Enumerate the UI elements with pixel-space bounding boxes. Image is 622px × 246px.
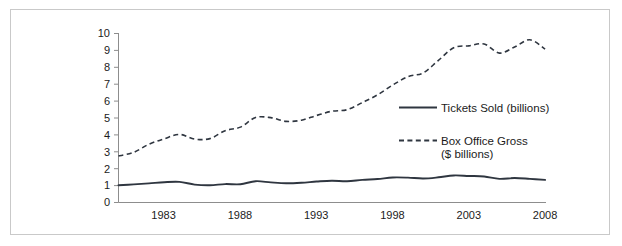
x-tick-label: 2003	[457, 209, 481, 221]
y-tick-label: 7	[104, 78, 110, 90]
legend-label-box-office-gross: Box Office Gross	[441, 135, 528, 147]
x-tick-labels: 1983 1988 1993 1998 2003 2008	[151, 209, 557, 221]
y-tick-label: 10	[98, 27, 110, 39]
y-tick-labels: 0 1 2 3 4 5 6 7 8 9 10	[98, 27, 110, 208]
y-tick-label: 9	[104, 44, 110, 56]
legend-label-box-office-gross-units: ($ billions)	[441, 148, 494, 160]
y-tick-label: 1	[104, 179, 110, 191]
y-tick-label: 3	[104, 146, 110, 158]
y-tick-label: 4	[104, 129, 110, 141]
line-chart: 0 1 2 3 4 5 6 7 8 9 10 1983 1988 1993 19…	[0, 0, 622, 246]
y-tick-label: 8	[104, 61, 110, 73]
legend-label-tickets-sold: Tickets Sold (billions)	[441, 102, 549, 114]
y-tick-label: 6	[104, 95, 110, 107]
y-tick-label: 2	[104, 163, 110, 175]
x-tick-label: 1983	[151, 209, 175, 221]
x-tick-label: 1998	[380, 209, 404, 221]
y-tick-marks	[114, 34, 119, 203]
chart-legend: Tickets Sold (billions) Box Office Gross…	[399, 102, 549, 161]
y-tick-label: 0	[104, 196, 110, 208]
y-tick-label: 5	[104, 112, 110, 124]
x-tick-label: 1993	[304, 209, 328, 221]
x-tick-label: 1988	[228, 209, 252, 221]
series-line-tickets-sold	[119, 175, 546, 185]
x-tick-label: 2008	[533, 209, 557, 221]
chart-figure: 0 1 2 3 4 5 6 7 8 9 10 1983 1988 1993 19…	[0, 0, 622, 246]
